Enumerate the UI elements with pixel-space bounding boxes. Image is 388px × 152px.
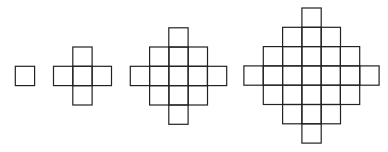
grid-cell [188, 86, 207, 105]
diagram-canvas [0, 0, 388, 152]
grid-cell [340, 66, 359, 85]
grid-cell [92, 66, 111, 85]
grid-cell [188, 66, 207, 85]
grid-cell [263, 85, 282, 104]
figure-4 [244, 8, 379, 143]
grid-cell [150, 86, 169, 105]
grid-cell [169, 66, 188, 85]
grid-cell [321, 27, 340, 46]
grid-cell [321, 47, 340, 66]
grid-cell [283, 105, 302, 124]
grid-cell [244, 66, 263, 85]
grid-cell [302, 66, 321, 85]
grid-cell [302, 27, 321, 46]
grid-cell [54, 66, 73, 85]
grid-cell [73, 66, 92, 85]
figure-2 [54, 47, 112, 105]
grid-cell [302, 124, 321, 143]
grid-cell [321, 85, 340, 104]
figure-1 [15, 66, 34, 85]
grid-cell [360, 66, 379, 85]
grid-cell [169, 105, 188, 124]
grid-cell [283, 47, 302, 66]
grid-cell [302, 105, 321, 124]
grid-cell [150, 66, 169, 85]
grid-cell [321, 105, 340, 124]
grid-cell [263, 47, 282, 66]
figure-3 [130, 28, 226, 125]
grid-cell [188, 47, 207, 66]
grid-cell [302, 8, 321, 27]
grid-cell [340, 47, 359, 66]
grid-cell [73, 86, 92, 105]
grid-cell [73, 47, 92, 66]
grid-cell [302, 85, 321, 104]
grid-cell [340, 85, 359, 104]
grid-cell [169, 28, 188, 47]
grid-cell [302, 47, 321, 66]
grid-cell [150, 47, 169, 66]
grid-cell [169, 86, 188, 105]
grid-cell [283, 66, 302, 85]
grid-cell [169, 47, 188, 66]
grid-cell [15, 66, 34, 85]
grid-cell [130, 66, 149, 85]
grid-cell [263, 66, 282, 85]
grid-cell [321, 66, 340, 85]
grid-cell [207, 66, 226, 85]
grid-cell [283, 85, 302, 104]
grid-cell [283, 27, 302, 46]
